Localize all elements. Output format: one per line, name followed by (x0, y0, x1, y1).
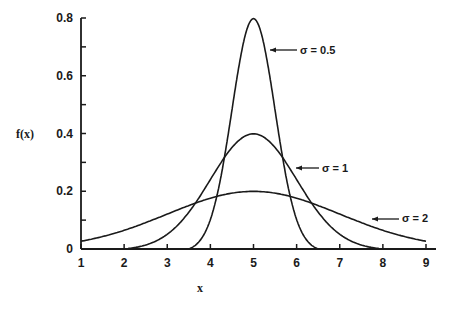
annotation-label: σ = 0.5 (300, 44, 335, 56)
x-tick-label: 4 (207, 256, 214, 270)
y-tick-label: 0.4 (56, 127, 73, 141)
curves (81, 19, 426, 249)
y-tick-label: 0.2 (56, 184, 73, 198)
y-tick-label: 0.8 (56, 11, 73, 25)
y-axis: 00.20.40.60.8 (56, 11, 86, 256)
arrowhead-icon (296, 166, 302, 171)
arrowhead-icon (270, 48, 276, 53)
x-tick-label: 7 (336, 256, 343, 270)
y-tick-label: 0 (66, 242, 73, 256)
x-tick-label: 8 (380, 256, 387, 270)
x-tick-label: 5 (250, 256, 257, 270)
x-tick-label: 6 (293, 256, 300, 270)
arrowhead-icon (372, 217, 378, 222)
y-tick-label: 0.6 (56, 69, 73, 83)
normal-distribution-chart: 00.20.40.60.8 123456789 σ = 0.5σ = 1σ = … (0, 0, 450, 311)
x-tick-label: 2 (121, 256, 128, 270)
annotation-label: σ = 1 (322, 162, 348, 174)
curve-2 (81, 191, 426, 241)
annotation-label: σ = 2 (402, 212, 428, 224)
x-tick-label: 3 (164, 256, 171, 270)
x-tick-label: 9 (423, 256, 430, 270)
y-axis-label: f(x) (16, 127, 34, 141)
x-tick-label: 1 (78, 256, 85, 270)
x-axis-label: x (197, 281, 203, 295)
